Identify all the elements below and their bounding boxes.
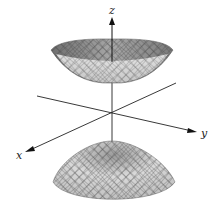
x-axis-label: x: [16, 149, 23, 162]
x-axis: [30, 83, 176, 150]
x-axis-arrow-icon: [25, 146, 35, 152]
lower-sheet: [53, 141, 175, 199]
hyperboloid-diagram: z y x: [0, 0, 219, 217]
z-axis-label: z: [108, 4, 115, 17]
z-axis-arrow-icon: [109, 17, 115, 25]
y-axis-label: y: [200, 127, 208, 140]
y-axis-arrow-icon: [187, 128, 197, 133]
y-axis: [37, 96, 192, 131]
